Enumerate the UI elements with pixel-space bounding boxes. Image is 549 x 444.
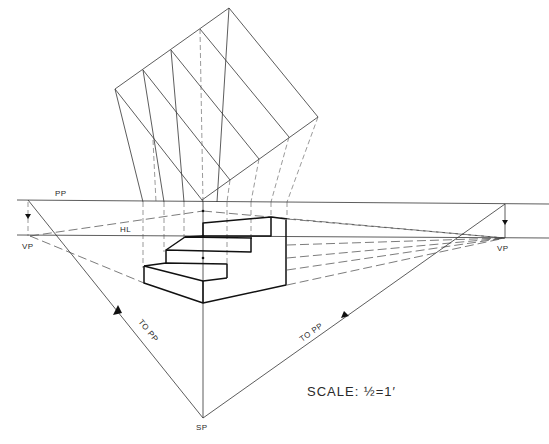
plan-step-line (200, 29, 289, 137)
step-2-tread (166, 237, 252, 250)
to-pp-right-label: TO PP (298, 321, 325, 343)
pp-label: PP (55, 189, 67, 198)
perspective-drawing: PP HL VP VP SP TO PP TO PP SCALE: ½=1′ (0, 0, 549, 444)
picture-plane-line (17, 200, 549, 204)
vp-left-label: VP (22, 242, 34, 251)
sp-label: SP (196, 423, 208, 432)
horizon-line (17, 235, 549, 238)
plan-step-line (143, 70, 230, 180)
stair (144, 210, 287, 303)
left-to-pp-arrow-icon (113, 305, 122, 315)
plan-projectors (115, 8, 318, 202)
hl-label: HL (120, 225, 131, 234)
step-1-back (144, 263, 227, 278)
scale-label: SCALE: ½=1′ (307, 384, 396, 399)
right-arrow-icon (502, 220, 508, 225)
rotated-plan (115, 8, 318, 200)
vp-right-label: VP (497, 244, 509, 253)
step-3-back (185, 217, 271, 237)
vertical-projectors (143, 202, 287, 418)
step-3-top (203, 217, 287, 236)
left-arrow-icon (25, 214, 31, 219)
plan-outline (115, 8, 318, 200)
right-to-pp-arrow-icon (341, 311, 349, 318)
left-sight-line (28, 200, 203, 418)
vanishing-lines (30, 211, 505, 285)
plan-step-line (171, 50, 259, 159)
step-1-tread (144, 266, 227, 281)
